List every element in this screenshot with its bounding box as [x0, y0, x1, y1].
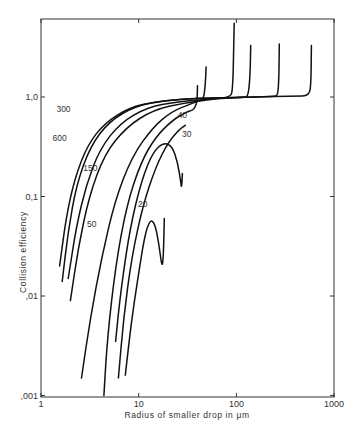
curve-label-600: 600 — [53, 133, 67, 143]
x-tick-label: 10 — [134, 399, 144, 409]
y-axis-label: Collision efficiency — [18, 211, 28, 293]
y-tick-label: 1,0 — [25, 92, 38, 102]
plot-frame — [41, 19, 334, 397]
x-axis-label: Radius of smaller drop in μm — [124, 410, 249, 420]
collision-efficiency-chart: 1101001000 1,00,1,01,001 600300150504030… — [0, 0, 362, 434]
x-tick-label: 1000 — [324, 399, 344, 409]
y-tick-label: ,001 — [20, 391, 38, 401]
curve-label-40: 40 — [178, 110, 188, 120]
curve-label-30: 30 — [182, 129, 192, 139]
curve-20 — [125, 219, 164, 376]
y-tick-label: 0,1 — [25, 192, 38, 202]
curve-50 — [82, 67, 207, 378]
curve-label-300: 300 — [56, 104, 70, 114]
curve-label-50: 50 — [87, 219, 97, 229]
efficiency-curves — [60, 23, 312, 395]
x-tick-label: 1 — [38, 399, 43, 409]
x-axis-ticks: 1101001000 — [38, 19, 344, 409]
curve-150 — [68, 45, 251, 278]
curve-label-150: 150 — [83, 163, 97, 173]
y-axis-ticks: 1,00,1,01,001 — [20, 92, 334, 401]
curve-30b — [118, 125, 185, 378]
curve-label-20: 20 — [138, 199, 148, 209]
x-tick-label: 100 — [229, 399, 244, 409]
